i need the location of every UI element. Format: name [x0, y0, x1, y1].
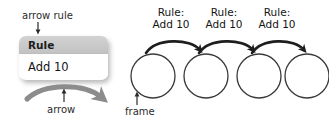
transition-label-1-line2: Add 10 — [143, 18, 199, 30]
transition-label-2-line2: Add 10 — [196, 18, 252, 30]
rule-card-body-label: Add 10 — [28, 60, 69, 74]
frame-value-4: 177 — [285, 70, 329, 84]
transition-label-3-line2: Add 10 — [249, 18, 305, 30]
transition-label-3-line1: Rule: — [249, 6, 305, 18]
frame-value-1: 147 — [131, 70, 175, 84]
rule-card-header: Rule — [19, 36, 108, 54]
transition-label-3: Rule: Add 10 — [249, 6, 305, 30]
transition-label-1-line1: Rule: — [143, 6, 199, 18]
transition-label-2: Rule: Add 10 — [196, 6, 252, 30]
arrow-rule-diagram: arrow rule Rule Add 10 arrow frame Rule:… — [0, 0, 329, 122]
chain-arrow-1-icon — [146, 41, 200, 53]
rule-card-header-label: Rule — [28, 39, 54, 51]
frame-value-3: 167 — [237, 70, 281, 84]
transition-label-1: Rule: Add 10 — [143, 6, 199, 30]
chain-arrow-2-icon — [199, 41, 253, 53]
callout-label-arrow-rule: arrow rule — [22, 10, 73, 22]
big-curved-arrow-icon — [27, 87, 101, 99]
chain-arrow-3-icon — [252, 41, 304, 53]
rule-card-body: Add 10 — [19, 54, 108, 79]
callout-label-arrow: arrow — [47, 104, 75, 116]
frame-value-2: 157 — [184, 70, 228, 84]
transition-label-2-line1: Rule: — [196, 6, 252, 18]
callout-label-frame: frame — [125, 106, 155, 118]
rule-card[interactable]: Rule Add 10 — [19, 36, 108, 80]
